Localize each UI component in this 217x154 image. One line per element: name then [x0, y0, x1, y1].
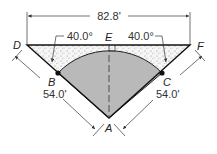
point-b	[55, 70, 60, 75]
dim-line-right-upper	[180, 56, 202, 75]
ext-line-a-right	[114, 124, 125, 136]
right-side-label: 54.0'	[156, 88, 180, 100]
right-angle-label: 40.0°	[128, 30, 154, 42]
dim-line-right-lower	[123, 100, 153, 129]
dim-line-left-upper	[15, 56, 40, 78]
sector-diagram: 82.8' 40.0° 40.0° 54.0' 54.0' D F E B C …	[0, 0, 217, 154]
left-angle-label: 40.0°	[67, 30, 93, 42]
label-f: F	[197, 40, 205, 52]
label-a: A	[104, 122, 112, 134]
label-c: C	[163, 76, 171, 88]
label-e: E	[105, 31, 113, 43]
label-b: B	[48, 76, 55, 88]
top-width-label: 82.8'	[97, 10, 121, 22]
point-c	[159, 70, 164, 75]
label-d: D	[13, 39, 21, 51]
ext-line-a-left	[93, 124, 104, 136]
ext-line-d-perp	[12, 50, 22, 61]
left-side-label: 54.0'	[43, 88, 67, 100]
dim-line-left-lower	[63, 99, 95, 129]
